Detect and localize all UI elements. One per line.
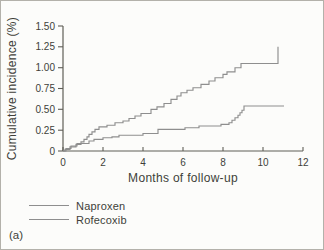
legend-label-rofecoxib: Rofecoxib [76, 214, 127, 226]
x-tick-label: 10 [257, 157, 269, 168]
legend-item-naproxen: Naproxen [29, 199, 127, 212]
x-tick-label: 4 [140, 157, 146, 168]
legend-item-rofecoxib: Rofecoxib [29, 213, 127, 226]
x-tick-label: 12 [297, 157, 309, 168]
legend: Naproxen Rofecoxib [29, 199, 127, 227]
x-tick-label: 6 [180, 157, 186, 168]
y-tick-label: 1.00 [36, 62, 56, 73]
rofecoxib-line-swatch [29, 219, 69, 220]
y-tick-label: 1.25 [36, 41, 56, 52]
x-axis-title: Months of follow-up [128, 171, 238, 185]
y-axis-title: Cumulative incidence (%) [5, 17, 19, 160]
figure-panel: 00.250.500.751.001.251.50024681012Months… [0, 0, 324, 250]
naproxen-line-swatch [29, 205, 69, 206]
legend-label-naproxen: Naproxen [76, 200, 125, 212]
y-tick-label: 0.50 [36, 104, 56, 115]
y-tick-label: 0.25 [36, 125, 56, 136]
y-tick-label: 1.50 [36, 21, 56, 32]
series-line-rofecoxib [63, 106, 284, 151]
x-tick-label: 0 [60, 157, 66, 168]
panel-label: (a) [9, 229, 23, 241]
y-tick-label: 0 [49, 146, 55, 157]
x-tick-label: 8 [220, 157, 226, 168]
y-tick-label: 0.75 [36, 83, 56, 94]
x-tick-label: 2 [100, 157, 106, 168]
series-line-naproxen [63, 47, 278, 151]
